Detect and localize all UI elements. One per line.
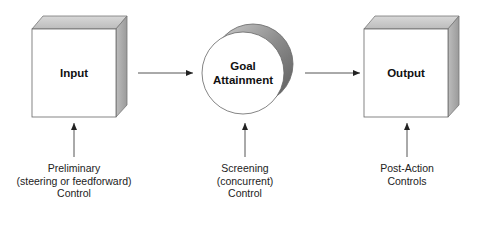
screening-control-label: Screening (concurrent) Control: [195, 162, 295, 200]
goal-label-line-1: Goal: [203, 59, 283, 73]
output-label: Output: [364, 66, 448, 80]
screening-line-1: Screening: [195, 162, 295, 175]
screening-line-3: Control: [195, 187, 295, 200]
input-label: Input: [32, 66, 116, 80]
preliminary-line-3: Control: [4, 187, 144, 200]
preliminary-control-label: Preliminary (steering or feedforward) Co…: [4, 162, 144, 200]
goal-attainment-label: Goal Attainment: [203, 59, 283, 87]
preliminary-line-2: (steering or feedforward): [4, 175, 144, 188]
goal-label-line-2: Attainment: [203, 73, 283, 87]
post-action-control-label: Post-Action Controls: [357, 162, 457, 187]
screening-line-2: (concurrent): [195, 175, 295, 188]
post-action-line-2: Controls: [357, 175, 457, 188]
post-action-line-1: Post-Action: [357, 162, 457, 175]
preliminary-line-1: Preliminary: [4, 162, 144, 175]
